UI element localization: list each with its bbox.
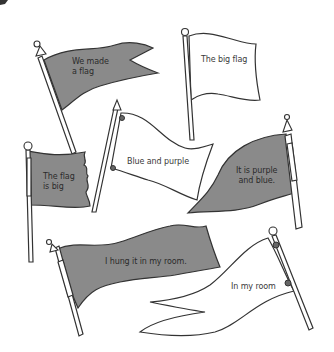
flag-7-caption: In my room [231, 282, 276, 292]
flag-5-caption-line1: It is purple [236, 166, 277, 176]
flag-7-caption-line1: In my room [231, 282, 276, 292]
flag-3-caption-line1: Blue and purple [127, 157, 189, 167]
flag-4-caption-line2: is big [43, 182, 75, 192]
flag-1-caption: We made a flag [72, 57, 109, 77]
flag-4-caption-line1: The flag [43, 172, 75, 182]
flag-3-caption: Blue and purple [127, 157, 189, 167]
flag-1-caption-line1: We made [72, 57, 109, 67]
flag-6-caption: I hung it in my room. [105, 257, 187, 267]
flag-5-caption: It is purple and blue. [236, 166, 277, 186]
flag-5-caption-line2: and blue. [236, 176, 277, 186]
flag-4-caption: The flag is big [43, 172, 75, 192]
flag-2-the-big-flag [182, 29, 261, 141]
flag-2-caption-line1: The big flag [201, 55, 247, 65]
flag-3-blue-and-purple [92, 100, 213, 212]
flag-1-caption-line2: a flag [72, 67, 109, 77]
flag-2-caption: The big flag [201, 55, 247, 65]
flag-4-the-flag-is-big [24, 142, 90, 262]
heading-fragment [0, 0, 8, 5]
flag-6-caption-line1: I hung it in my room. [105, 257, 187, 267]
